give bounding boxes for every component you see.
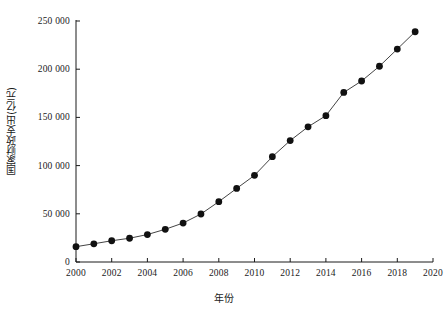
data-point-marker — [215, 198, 222, 205]
data-point-marker — [90, 240, 97, 247]
data-point-marker — [108, 237, 115, 244]
data-point-marker — [358, 78, 365, 85]
x-axis-ticks — [76, 258, 433, 262]
x-tick-label: 2006 — [173, 268, 193, 278]
data-point-marker — [269, 153, 276, 160]
series-line — [76, 32, 415, 247]
data-point-marker — [144, 231, 151, 238]
x-tick-label: 2008 — [209, 268, 229, 278]
x-tick-label: 2002 — [102, 268, 122, 278]
x-tick-label: 2004 — [137, 268, 157, 278]
data-point-marker — [412, 28, 419, 35]
data-point-marker — [251, 172, 258, 179]
data-point-marker — [162, 226, 169, 233]
x-tick-label: 2012 — [280, 268, 300, 278]
data-point-marker — [198, 211, 205, 218]
data-point-marker — [126, 235, 133, 242]
y-axis-ticks — [76, 21, 80, 262]
chart-figure: 050 000100 000150 000200 000250 000 2000… — [0, 0, 448, 315]
data-point-marker — [340, 89, 347, 96]
x-tick-label: 2020 — [423, 268, 443, 278]
data-point-marker — [233, 185, 240, 192]
data-point-marker — [305, 123, 312, 130]
x-tick-label: 2016 — [352, 268, 372, 278]
y-axis-title: 国家财政支出(亿元) — [2, 0, 20, 262]
data-point-marker — [394, 46, 401, 53]
y-axis-title-text: 国家财政支出(亿元) — [4, 87, 19, 175]
x-tick-label: 2014 — [316, 268, 336, 278]
data-point-marker — [180, 220, 187, 227]
series-markers — [73, 28, 419, 250]
x-tick-label: 2000 — [66, 268, 86, 278]
data-point-marker — [73, 243, 80, 250]
data-point-marker — [323, 112, 330, 119]
x-axis-title: 年份 — [0, 290, 448, 305]
x-tick-label: 2018 — [387, 268, 407, 278]
x-tick-label: 2010 — [245, 268, 265, 278]
data-point-marker — [376, 63, 383, 70]
data-point-marker — [287, 137, 294, 144]
